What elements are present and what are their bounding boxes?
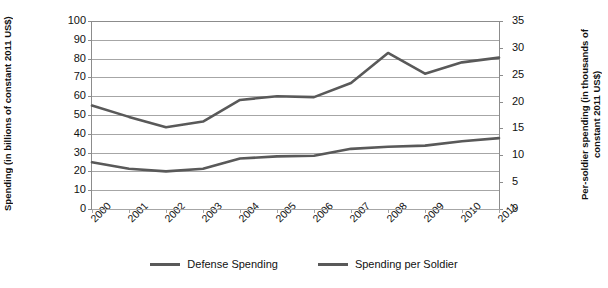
- y-axis-right-tick-label: 35: [512, 15, 538, 26]
- legend-label-spending-per-soldier: Spending per Soldier: [355, 258, 458, 270]
- y-axis-left-tick-label: 60: [52, 90, 86, 101]
- y-axis-left-tick-label: 100: [52, 15, 86, 26]
- chart-legend: Defense Spending Spending per Soldier: [0, 258, 608, 270]
- y-axis-left-tick-label: 10: [52, 184, 86, 195]
- chart-container: Spending (in billions of constant 2011 U…: [0, 0, 608, 288]
- gridline: [92, 209, 499, 210]
- y-axis-right-title: Per-soldier spending (in thousands of co…: [579, 12, 607, 217]
- y-axis-right-tick-label: 25: [512, 69, 538, 80]
- series-line-spending-per-soldier: [92, 138, 499, 171]
- y-axis-left-tick-label: 40: [52, 128, 86, 139]
- y-axis-left-title: Spending (in billions of constant 2011 U…: [2, 14, 30, 214]
- y-axis-left-tick-label: 20: [52, 165, 86, 176]
- y-axis-right-tick-label: 5: [512, 176, 538, 187]
- y-axis-left-tick-label: 80: [52, 53, 86, 64]
- legend-label-defense-spending: Defense Spending: [187, 258, 278, 270]
- plot-right-axis-line: [499, 21, 500, 209]
- y-axis-left-tick-label: 70: [52, 71, 86, 82]
- y-axis-left-tick-label: 0: [52, 203, 86, 214]
- y-axis-right-tick-label: 15: [512, 122, 538, 133]
- y-axis-right-tick-label: 20: [512, 96, 538, 107]
- legend-line-swatch-defense-spending: [150, 263, 180, 266]
- y-axis-left-tick-label: 30: [52, 147, 86, 158]
- series-line-defense-spending: [92, 53, 499, 127]
- y-axis-right-tick-label: 10: [512, 149, 538, 160]
- plot-area: [92, 21, 499, 209]
- legend-item-defense-spending[interactable]: Defense Spending: [150, 258, 278, 270]
- legend-line-swatch-spending-per-soldier: [318, 263, 348, 266]
- y-axis-left-tick-label: 90: [52, 34, 86, 45]
- legend-item-spending-per-soldier[interactable]: Spending per Soldier: [318, 258, 458, 270]
- y-axis-left-tick-label: 50: [52, 109, 86, 120]
- y-axis-right-tick-label: 30: [512, 42, 538, 53]
- series-layer: [92, 21, 499, 209]
